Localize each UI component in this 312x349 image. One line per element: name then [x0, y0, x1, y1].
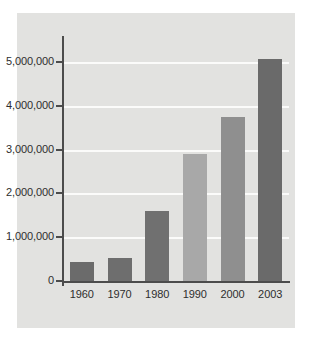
y-axis-tick-label: 5,000,000	[0, 56, 54, 67]
figure-container: 01,000,0002,000,0003,000,0004,000,0005,0…	[0, 0, 312, 349]
y-axis-tick	[56, 105, 62, 107]
bar	[70, 262, 94, 281]
y-axis-labels: 01,000,0002,000,0003,000,0004,000,0005,0…	[0, 0, 54, 349]
y-axis-tick-label: 3,000,000	[0, 144, 54, 155]
x-axis-line	[62, 281, 290, 283]
x-axis-tick-label: 2003	[250, 288, 290, 300]
bar	[221, 117, 245, 281]
y-axis-tick	[56, 236, 62, 238]
y-axis-tick	[56, 280, 62, 282]
x-axis-tick-label: 1970	[100, 288, 140, 300]
y-axis-tick-label: 1,000,000	[0, 231, 54, 242]
x-axis-tick-label: 1990	[175, 288, 215, 300]
bar	[145, 211, 169, 281]
y-axis-tick-label: 0	[0, 275, 54, 286]
bar	[258, 59, 282, 281]
bars-layer	[63, 40, 289, 281]
y-axis-tick-label: 4,000,000	[0, 100, 54, 111]
y-axis-tick	[56, 149, 62, 151]
y-axis-tick	[56, 61, 62, 63]
y-axis-tick	[56, 192, 62, 194]
x-axis-tick-label: 2000	[213, 288, 253, 300]
bar	[183, 154, 207, 281]
bar	[108, 258, 132, 281]
x-axis-tick-label: 1980	[137, 288, 177, 300]
figure-caption	[10, 340, 302, 349]
x-axis-tick-label: 1960	[62, 288, 102, 300]
y-axis-tick-label: 2,000,000	[0, 187, 54, 198]
